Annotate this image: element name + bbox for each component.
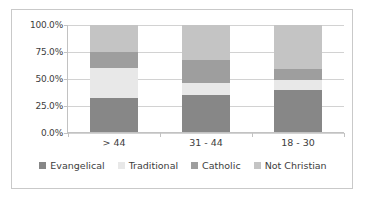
plot-area (68, 25, 344, 133)
legend-swatch-icon (118, 162, 125, 169)
bar-stack[interactable] (182, 25, 230, 133)
legend-item[interactable]: Traditional (118, 160, 178, 171)
legend-label: Catholic (202, 160, 241, 171)
bar-stack[interactable] (274, 25, 322, 133)
bar-group (68, 25, 160, 133)
y-axis-tick-label: 75.0% (18, 47, 63, 57)
legend-item[interactable]: Not Christian (254, 160, 327, 171)
bar-segment[interactable] (182, 25, 230, 60)
x-axis-tick-label: 31 - 44 (189, 137, 223, 148)
bar-segment[interactable] (274, 25, 322, 69)
legend-label: Not Christian (265, 160, 327, 171)
x-axis-line (68, 132, 344, 133)
x-axis: > 4431 - 4418 - 30 (68, 137, 344, 155)
bar-stack[interactable] (90, 25, 138, 133)
gridline (68, 133, 344, 134)
bar-segment[interactable] (274, 90, 322, 133)
bar-group (252, 25, 344, 133)
legend-label: Traditional (129, 160, 178, 171)
bar-segment[interactable] (182, 83, 230, 95)
x-axis-tick-label: > 44 (102, 137, 125, 148)
y-axis-tick-label: 25.0% (18, 101, 63, 111)
x-axis-tick-label: 18 - 30 (281, 137, 315, 148)
bar-segment[interactable] (182, 95, 230, 133)
y-axis-tick-label: 100.0% (18, 20, 63, 30)
bar-group (160, 25, 252, 133)
bar-segment[interactable] (90, 98, 138, 133)
bar-segment[interactable] (274, 69, 322, 80)
plot-region: 0.0%25.0%50.0%75.0%100.0% > 4431 - 4418 … (12, 10, 354, 190)
chart-legend: EvangelicalTraditionalCatholicNot Christ… (12, 160, 354, 171)
bar-segment[interactable] (182, 60, 230, 84)
bar-segment[interactable] (274, 80, 322, 90)
chart-container: 0.0%25.0%50.0%75.0%100.0% > 4431 - 4418 … (11, 9, 353, 189)
bar-segment[interactable] (90, 25, 138, 52)
legend-swatch-icon (254, 162, 261, 169)
legend-item[interactable]: Evangelical (39, 160, 104, 171)
y-axis-tick-label: 0.0% (18, 128, 63, 138)
legend-label: Evangelical (50, 160, 104, 171)
legend-swatch-icon (39, 162, 46, 169)
bar-segment[interactable] (90, 68, 138, 98)
legend-item[interactable]: Catholic (191, 160, 241, 171)
bar-segment[interactable] (90, 52, 138, 68)
y-axis-tick-label: 50.0% (18, 74, 63, 84)
bars-layer (68, 25, 344, 133)
legend-swatch-icon (191, 162, 198, 169)
x-axis-tickmark (344, 133, 345, 137)
